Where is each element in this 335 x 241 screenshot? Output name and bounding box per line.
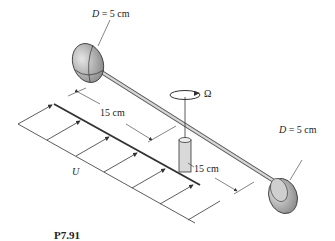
rotation-label: Ω <box>204 88 211 99</box>
top-cup-label: D = 5 cm <box>91 8 130 19</box>
flow-velocity-label: U <box>72 166 80 177</box>
right-cup-label: D = 5 cm <box>278 124 317 135</box>
top-cup-leader <box>98 20 110 46</box>
dimension-right-label: 15 cm <box>194 163 219 174</box>
diagram-svg: Ω D = 5 cm D = 5 cm 15 cm 15 cm U P7.91 <box>0 0 335 241</box>
right-cup-leader <box>290 160 302 180</box>
top-cup <box>67 39 109 87</box>
right-cup <box>264 174 303 217</box>
anemometer-figure: Ω D = 5 cm D = 5 cm 15 cm 15 cm U P7.91 <box>0 0 335 241</box>
shaft <box>179 97 191 172</box>
dimension-left-label: 15 cm <box>100 107 125 118</box>
figure-id-label: P7.91 <box>54 229 80 241</box>
